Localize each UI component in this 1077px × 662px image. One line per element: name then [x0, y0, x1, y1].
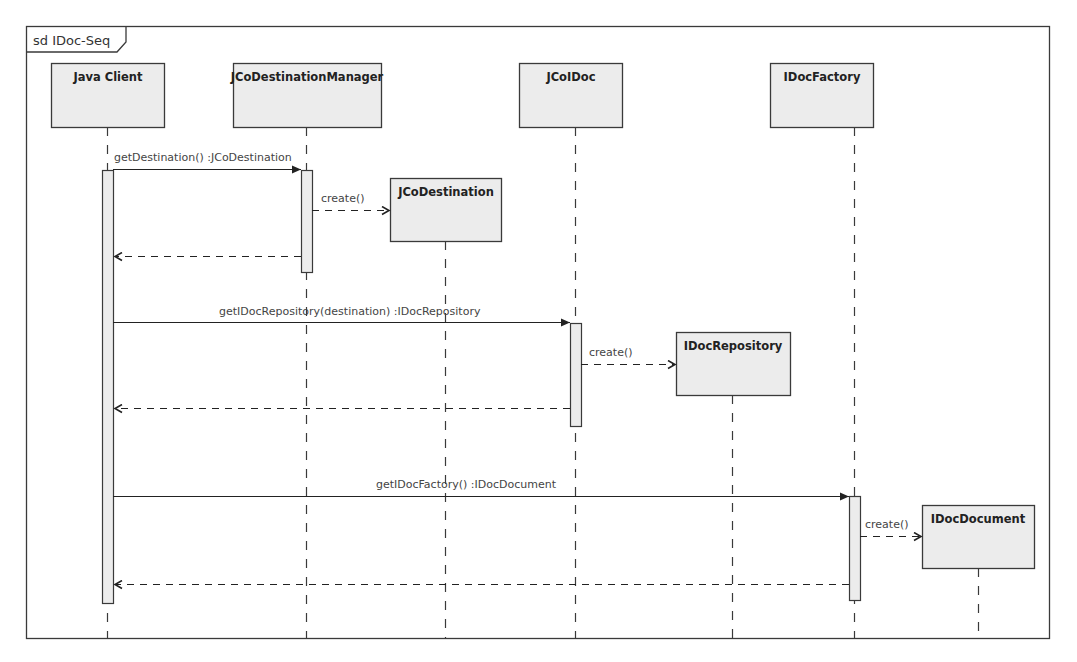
- lifelines: [108, 127, 979, 638]
- activation-idoc-factory: [850, 497, 861, 601]
- activation-jco-destination-manager: [302, 171, 313, 273]
- object-idoc-repository[interactable]: IDocRepository: [677, 333, 791, 396]
- lifeline-label: IDocFactory: [784, 70, 861, 84]
- lifeline-head-idoc-factory[interactable]: IDocFactory: [771, 64, 874, 128]
- sequence-diagram: sd IDoc-Seq Java Client JCoDestinationMa…: [0, 0, 1077, 662]
- frame-label: sd IDoc-Seq: [33, 33, 110, 48]
- lifeline-head-java-client[interactable]: Java Client: [52, 64, 165, 128]
- activation-jco-idoc: [571, 324, 582, 427]
- message-create-idoc-repository[interactable]: create(): [581, 346, 675, 365]
- activation-java-client: [103, 171, 114, 604]
- object-jco-destination[interactable]: JCoDestination: [391, 179, 502, 242]
- message-label: create(): [321, 192, 365, 205]
- message-create-jco-destination[interactable]: create(): [312, 192, 389, 211]
- message-get-idoc-factory[interactable]: getIDocFactory() :IDocDocument: [113, 478, 849, 497]
- lifeline-label: Java Client: [72, 70, 143, 84]
- object-label: IDocRepository: [684, 339, 783, 353]
- message-create-idoc-document[interactable]: create(): [860, 518, 921, 537]
- object-idoc-document[interactable]: IDocDocument: [923, 506, 1035, 569]
- message-label: create(): [865, 518, 909, 531]
- object-label: IDocDocument: [931, 512, 1026, 526]
- lifeline-head-jco-idoc[interactable]: JCoIDoc: [520, 64, 623, 128]
- message-label: getIDocFactory() :IDocDocument: [376, 478, 557, 491]
- message-get-destination[interactable]: getDestination() :JCoDestination: [113, 151, 301, 170]
- lifeline-label: JCoIDoc: [545, 70, 595, 84]
- message-label: getIDocRepository(destination) :IDocRepo…: [219, 305, 481, 318]
- lifeline-label: JCoDestinationManager: [230, 70, 384, 84]
- message-get-idoc-repository[interactable]: getIDocRepository(destination) :IDocRepo…: [113, 305, 570, 323]
- object-label: JCoDestination: [397, 185, 494, 199]
- message-label: create(): [589, 346, 633, 359]
- message-label: getDestination() :JCoDestination: [114, 151, 292, 164]
- lifeline-head-jco-destination-manager[interactable]: JCoDestinationManager: [230, 64, 384, 128]
